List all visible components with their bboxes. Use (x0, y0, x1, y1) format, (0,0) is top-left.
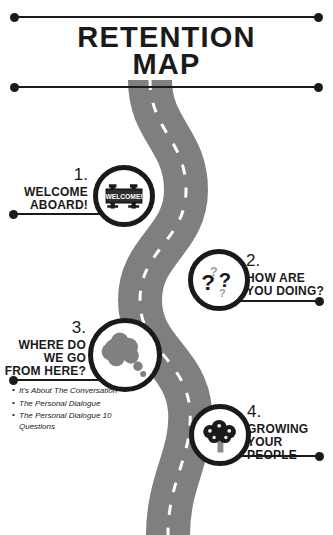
step-4-title-line-3: PEOPLE (247, 449, 329, 462)
step-3-bullet-list: It's About The Conversation The Personal… (12, 386, 120, 434)
step-3-icon-circle (88, 318, 162, 392)
step-4-icon-circle (189, 404, 251, 466)
rule-dot-right (314, 13, 323, 22)
top-rule (14, 16, 319, 18)
rule-dot-left (10, 83, 19, 92)
bullet-item: It's About The Conversation (12, 386, 120, 397)
step-4-label: 4. GROWING YOUR PEOPLE (247, 404, 329, 462)
step-2-label: 2. HOW ARE YOU DOING? (246, 253, 332, 298)
welcome-sign-icon: WELCOME! (98, 170, 150, 222)
step-1-number: 1. (6, 167, 88, 183)
tree-icon (194, 409, 246, 461)
step-3-label: 3. WHERE DO WE GO FROM HERE? (2, 320, 86, 378)
step-2-title-line-2: YOU DOING? (246, 285, 332, 298)
step-1-title-line-2: ABOARD! (6, 199, 88, 212)
rule-dot-right (314, 83, 323, 92)
retention-map-infographic: RETENTION MAP WELCOME! 1. (0, 0, 333, 535)
bullet-item: The Personal Dialogue (12, 399, 120, 410)
step-1-icon-circle: WELCOME! (93, 165, 155, 227)
step-3-title-line-3: FROM HERE? (2, 365, 86, 378)
page-title: RETENTION MAP (0, 24, 333, 78)
mid-rule (14, 86, 319, 88)
step-4-number: 4. (247, 404, 329, 420)
thought-bubble-icon (93, 323, 157, 387)
question-marks-icon: ? ? ? ? (193, 254, 245, 306)
bullet-item: The Personal Dialogue 10 Questions (12, 411, 120, 432)
step-1-label: 1. WELCOME ABOARD! (6, 167, 88, 212)
svg-text:?: ? (219, 287, 226, 299)
title-line-2: MAP (0, 51, 333, 78)
rule-dot-left (10, 13, 19, 22)
step-2-icon-circle: ? ? ? ? (188, 249, 250, 311)
welcome-sign-text: WELCOME! (105, 193, 142, 200)
step-3-number: 3. (2, 320, 86, 336)
svg-text:?: ? (210, 265, 218, 279)
step-2-number: 2. (246, 253, 332, 269)
